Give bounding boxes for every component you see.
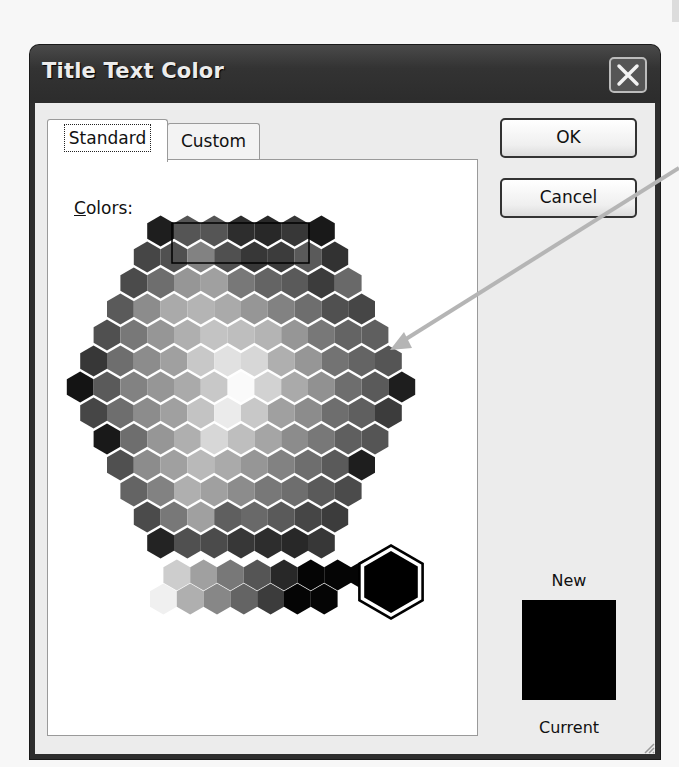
color-cell[interactable] [67,372,94,403]
color-cell[interactable] [375,346,402,377]
color-cell[interactable] [174,216,201,247]
color-cell[interactable] [362,424,389,455]
color-cell[interactable] [281,476,308,507]
color-cell[interactable] [254,424,281,455]
color-cell[interactable] [308,528,335,559]
color-cell[interactable] [254,216,281,247]
color-cell[interactable] [241,294,268,325]
tab-standard[interactable]: Standard [47,119,168,162]
color-cell[interactable] [161,242,188,273]
color-cell[interactable] [107,346,134,377]
color-cell[interactable] [94,372,121,403]
color-cell[interactable] [268,346,295,377]
color-cell[interactable] [241,242,268,273]
color-cell[interactable] [147,320,174,351]
color-cell[interactable] [174,268,201,299]
color-cell[interactable] [362,372,389,403]
color-cell[interactable] [254,268,281,299]
color-cell[interactable] [228,320,255,351]
color-cell[interactable] [335,320,362,351]
color-cell[interactable] [348,450,375,481]
color-cell[interactable] [254,476,281,507]
color-cell[interactable] [254,320,281,351]
color-cell[interactable] [174,424,201,455]
color-cell[interactable] [295,242,322,273]
color-cell[interactable] [214,346,241,377]
color-cell[interactable] [321,294,348,325]
color-cell[interactable] [214,242,241,273]
color-cell[interactable] [241,346,268,377]
color-cell[interactable] [120,372,147,403]
color-cell[interactable] [147,216,174,247]
color-cell[interactable] [254,528,281,559]
color-cell[interactable] [268,242,295,273]
color-cell[interactable] [120,320,147,351]
color-cell[interactable] [134,346,161,377]
color-cell[interactable] [94,424,121,455]
color-cell[interactable] [80,398,107,429]
color-cell[interactable] [174,372,201,403]
color-cell[interactable] [348,294,375,325]
color-cell[interactable] [308,372,335,403]
color-cell[interactable] [107,398,134,429]
color-cell[interactable] [321,346,348,377]
resize-grip-icon[interactable] [641,740,655,754]
color-cell[interactable] [281,372,308,403]
color-cell[interactable] [147,268,174,299]
ok-button[interactable]: OK [500,118,637,158]
color-cell[interactable] [281,424,308,455]
color-cell[interactable] [134,294,161,325]
color-cell[interactable] [375,398,402,429]
color-cell[interactable] [308,216,335,247]
color-cell[interactable] [80,346,107,377]
color-cell[interactable] [187,398,214,429]
close-button[interactable] [609,57,647,93]
color-cell[interactable] [134,502,161,533]
color-cell[interactable] [147,476,174,507]
color-cell[interactable] [120,476,147,507]
color-cell[interactable] [308,424,335,455]
color-cell[interactable] [295,450,322,481]
color-cell[interactable] [281,216,308,247]
color-cell[interactable] [161,346,188,377]
color-cell[interactable] [321,242,348,273]
color-cell[interactable] [335,268,362,299]
color-cell[interactable] [134,242,161,273]
color-cell[interactable] [201,268,228,299]
color-cell[interactable] [187,242,214,273]
color-cell[interactable] [147,424,174,455]
color-cell[interactable] [214,398,241,429]
color-cell[interactable] [308,476,335,507]
color-cell[interactable] [228,528,255,559]
color-cell[interactable] [120,424,147,455]
color-cell[interactable] [241,502,268,533]
color-cell[interactable] [187,450,214,481]
color-cell[interactable] [228,476,255,507]
color-cell[interactable] [388,372,415,403]
color-cell[interactable] [120,268,147,299]
color-cell[interactable] [161,398,188,429]
color-cell[interactable] [201,216,228,247]
color-cell[interactable] [107,450,134,481]
color-cell[interactable] [362,320,389,351]
color-cell[interactable] [214,450,241,481]
color-cell[interactable] [201,320,228,351]
color-cell[interactable] [187,502,214,533]
color-cell[interactable] [321,502,348,533]
color-cell[interactable] [228,268,255,299]
color-cell[interactable] [214,502,241,533]
color-cell[interactable] [321,450,348,481]
color-cell[interactable] [295,502,322,533]
color-cell[interactable] [94,320,121,351]
color-honeycomb[interactable] [48,160,479,737]
color-cell[interactable] [268,294,295,325]
color-cell[interactable] [281,320,308,351]
color-cell[interactable] [187,346,214,377]
color-cell[interactable] [174,320,201,351]
color-cell[interactable] [201,424,228,455]
title-bar[interactable]: Title Text Color [30,45,660,103]
color-cell[interactable] [295,294,322,325]
color-cell[interactable] [295,398,322,429]
color-cell[interactable] [161,294,188,325]
color-cell[interactable] [335,476,362,507]
